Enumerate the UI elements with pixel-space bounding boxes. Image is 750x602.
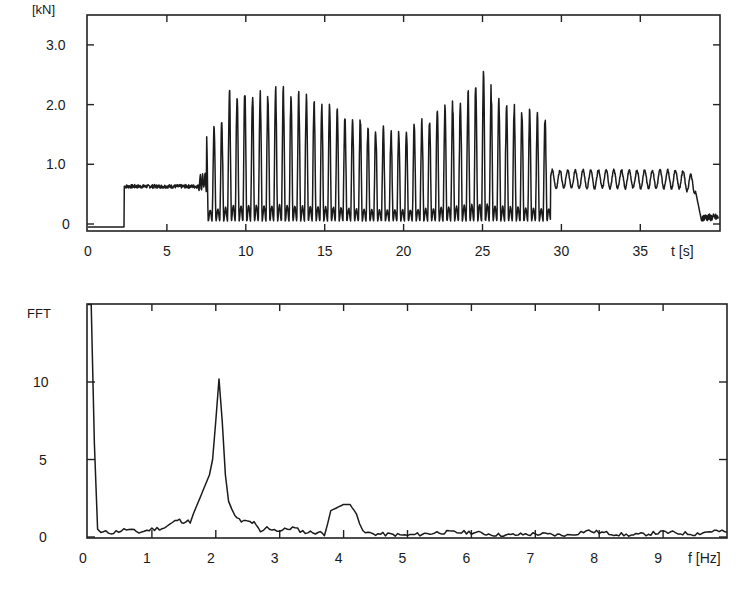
y-tick-label: 5 xyxy=(39,452,47,468)
bottom-plot-ylabel: FFT xyxy=(27,306,51,321)
fft-plot: 01234567890510 FFT f [Hz] xyxy=(27,304,727,566)
x-tick-label: 7 xyxy=(526,550,534,566)
x-tick-label: 25 xyxy=(475,243,491,259)
x-tick-label: 35 xyxy=(633,243,649,259)
bottom-plot-ticks xyxy=(87,304,727,538)
y-tick-label: 10 xyxy=(33,374,49,390)
y-tick-label: 1.0 xyxy=(46,156,66,172)
time-series-plot: 0510152025303501.02.03.0 [kN] t [s] xyxy=(32,2,720,259)
x-tick-label: 2 xyxy=(207,550,215,566)
y-tick-label: 0 xyxy=(39,529,47,545)
x-tick-label: 15 xyxy=(317,243,333,259)
x-tick-label: 20 xyxy=(396,243,412,259)
x-tick-label: 4 xyxy=(335,550,343,566)
x-tick-label: 6 xyxy=(463,550,471,566)
y-tick-label: 3.0 xyxy=(46,37,66,53)
top-plot-xlabel: t [s] xyxy=(671,243,694,259)
top-plot-ticks xyxy=(87,15,720,231)
fft-spectrum-trace xyxy=(88,305,727,537)
top-plot-ylabel: [kN] xyxy=(32,2,55,17)
bottom-plot-xlabel: f [Hz] xyxy=(688,550,721,566)
top-plot-frame xyxy=(87,15,720,231)
bottom-plot-frame xyxy=(87,304,727,538)
x-tick-label: 5 xyxy=(163,243,171,259)
x-tick-label: 3 xyxy=(271,550,279,566)
x-tick-label: 0 xyxy=(84,243,92,259)
x-tick-label: 1 xyxy=(143,550,151,566)
x-tick-label: 30 xyxy=(554,243,570,259)
x-tick-label: 5 xyxy=(399,550,407,566)
x-tick-label: 8 xyxy=(590,550,598,566)
force-time-trace xyxy=(88,71,718,227)
x-tick-label: 10 xyxy=(238,243,254,259)
y-tick-label: 0 xyxy=(62,216,70,232)
x-tick-label: 0 xyxy=(79,550,87,566)
y-tick-label: 2.0 xyxy=(46,97,66,113)
top-plot-tick-labels: 0510152025303501.02.03.0 xyxy=(46,37,648,259)
figure: 0510152025303501.02.03.0 [kN] t [s] 0123… xyxy=(0,0,750,602)
x-tick-label: 9 xyxy=(654,550,662,566)
